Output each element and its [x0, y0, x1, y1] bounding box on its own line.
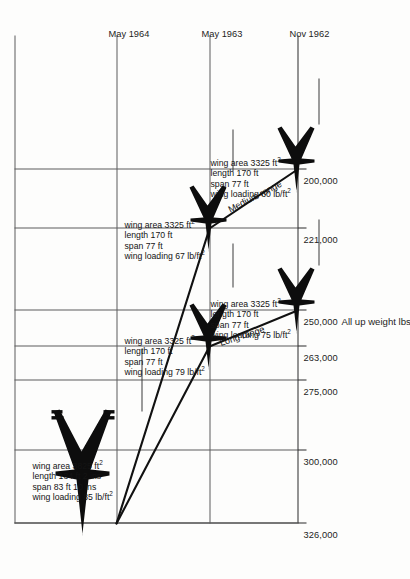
ytick-label-326000: 326,000	[303, 529, 337, 539]
ann4-line2: length 170 ft	[210, 167, 290, 177]
ann4-line1: wing area 3325 ft	[210, 157, 277, 167]
ann2-sup1: 2	[191, 217, 195, 224]
ann1-line1: wing area 3325 ft	[124, 335, 191, 345]
leader-line-long-1963	[232, 243, 233, 287]
ytick-label-250000: 250,000	[303, 316, 337, 326]
ytick-label-200000: 200,000	[303, 175, 337, 185]
ann3-line2: length 170 ft	[210, 308, 290, 318]
ann2-line3: span 77 ft	[124, 240, 204, 250]
tick-263000	[297, 345, 306, 346]
ytick-label-263000: 263,000	[303, 352, 337, 362]
ann1-line3: span 77 ft	[124, 356, 204, 366]
annotation-medium-range-1963: wing area 3325 ft2 length 170 ft span 77…	[124, 219, 204, 261]
ann0-sup1: 2	[99, 458, 103, 465]
tick-326000	[297, 522, 306, 523]
xtick-label-may-1964: May 1964	[108, 28, 149, 38]
ann2-line2: length 170 ft	[124, 229, 204, 239]
ann3-sup4: 2	[287, 327, 291, 334]
ann4-sup4: 2	[287, 186, 291, 193]
tick-300000	[297, 449, 306, 450]
ann1-line2: length 170 ft	[124, 345, 204, 355]
ann4-sup1: 2	[277, 155, 281, 162]
annotation-long-range-1963: wing area 3325 ft2 length 170 ft span 77…	[124, 335, 204, 377]
ann1-sup4: 2	[201, 364, 205, 371]
tick-221000	[297, 227, 306, 228]
ytick-label-221000: 221,000	[303, 234, 337, 244]
ann3-line1: wing area 3325 ft	[210, 298, 277, 308]
ann2-line1: wing area 3325 ft	[124, 219, 191, 229]
ann1-sup1: 2	[191, 333, 195, 340]
ann0-sup4: 2	[109, 489, 113, 496]
xtick-label-nov-1962: Nov 1962	[289, 28, 329, 38]
ann0-line1: wing area 3825 ft	[32, 460, 99, 470]
ann0-line4: wing loading 85 lb/ft	[32, 491, 109, 501]
ann2-sup4: 2	[201, 248, 205, 255]
plot-area: wing area 3825 ft2 length 184 ft 2 ins s…	[14, 35, 297, 523]
leader-line-medium-1962	[318, 78, 319, 124]
ytick-label-300000: 300,000	[303, 456, 337, 466]
ann0-line2: length 184 ft 2 ins	[32, 470, 112, 480]
tick-275000	[297, 379, 306, 380]
ann2-line4: wing loading 67 lb/ft	[124, 250, 201, 260]
y-axis-title: All up weight lbs	[341, 315, 410, 326]
ytick-label-275000: 275,000	[303, 386, 337, 396]
annotation-final-1964: wing area 3825 ft2 length 184 ft 2 ins s…	[32, 460, 112, 502]
ann1-line4: wing loading 79 lb/ft	[124, 366, 201, 376]
ann3-sup1: 2	[277, 296, 281, 303]
ann0-line3: span 83 ft 10 ins	[32, 481, 112, 491]
xtick-label-may-1963: May 1963	[201, 28, 242, 38]
